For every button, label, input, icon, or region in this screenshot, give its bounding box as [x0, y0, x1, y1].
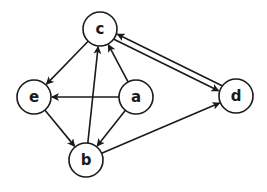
node-label: c: [96, 20, 105, 38]
directed-graph: ceadb: [0, 0, 267, 192]
edge-b-to-c: [88, 47, 98, 143]
node-c: c: [83, 12, 117, 46]
edge-d-to-c: [117, 34, 222, 86]
node-label: e: [29, 88, 39, 106]
nodes-layer: ceadb: [17, 12, 253, 177]
edge-e-to-b: [45, 110, 75, 146]
node-a: a: [119, 80, 153, 114]
edge-c-to-e: [47, 41, 89, 84]
node-b: b: [69, 143, 103, 177]
edge-a-to-b: [97, 110, 125, 146]
edge-b-to-d: [102, 103, 220, 153]
node-label: d: [231, 87, 242, 105]
node-d: d: [219, 79, 253, 113]
edge-a-to-c: [108, 45, 128, 82]
node-label: b: [81, 151, 92, 169]
node-e: e: [17, 80, 51, 114]
node-label: a: [131, 88, 141, 106]
